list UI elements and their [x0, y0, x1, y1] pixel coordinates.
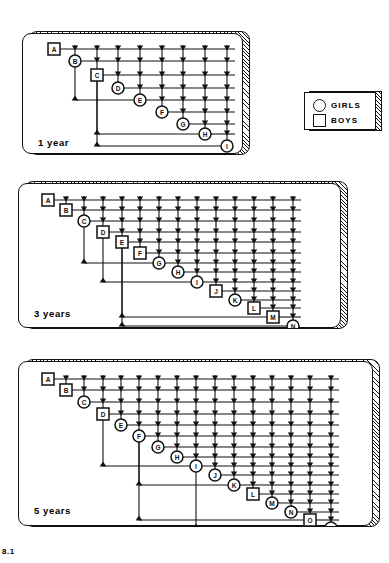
svg-text:L: L [252, 305, 256, 312]
legend-entry-girls: GIRLS [313, 99, 361, 112]
svg-text:I: I [226, 143, 228, 150]
svg-text:G: G [156, 260, 161, 267]
node-k: K [228, 479, 240, 491]
svg-text:B: B [64, 207, 69, 214]
node-d: D [97, 226, 109, 238]
node-c: C [91, 69, 103, 81]
node-c: C [78, 396, 90, 408]
node-i: I [191, 276, 203, 288]
node-b: B [60, 204, 72, 216]
node-a: A [48, 43, 60, 55]
node-n: N [285, 506, 297, 518]
node-d: D [112, 82, 124, 94]
node-f: F [134, 247, 146, 259]
panel-1-year-caption: 1 year [38, 137, 69, 148]
node-k: K [229, 294, 241, 306]
svg-text:C: C [82, 218, 87, 225]
svg-text:B: B [73, 58, 78, 65]
legend-box: GIRLS BOYS [304, 88, 382, 131]
svg-text:K: K [233, 297, 238, 304]
node-h: H [171, 451, 183, 463]
svg-text:E: E [138, 97, 143, 104]
svg-text:I: I [195, 463, 197, 470]
node-b: B [69, 55, 81, 67]
node-f: F [156, 106, 168, 118]
figure-number: 8.1 [2, 547, 15, 556]
svg-text:P: P [329, 525, 334, 526]
node-h: H [199, 128, 211, 140]
svg-text:D: D [101, 411, 106, 418]
svg-text:J: J [213, 472, 217, 479]
node-l: L [248, 302, 260, 314]
svg-text:J: J [214, 288, 218, 295]
legend-label-boys: BOYS [331, 116, 358, 125]
node-g: G [153, 257, 165, 269]
panel-1-year: ABCDEFGHI 1 year [22, 27, 250, 155]
node-g: G [177, 118, 189, 130]
svg-text:D: D [116, 85, 121, 92]
panel-3-years-caption: 3 years [34, 308, 71, 319]
node-o: O [304, 514, 316, 526]
svg-text:A: A [52, 46, 57, 53]
sociogram-figure: ABCDEFGHI 1 year ABCDEFGHIJKLMN 3 years … [0, 0, 389, 563]
node-e: E [115, 419, 127, 431]
node-m: M [267, 311, 279, 323]
node-i: I [190, 460, 202, 472]
svg-text:E: E [120, 239, 125, 246]
panel-3-years: ABCDEFGHIJKLMN 3 years [18, 177, 348, 329]
svg-text:L: L [251, 491, 255, 498]
svg-text:H: H [176, 269, 181, 276]
node-l: L [247, 488, 259, 500]
svg-text:A: A [46, 376, 51, 383]
svg-text:C: C [82, 399, 87, 406]
panel-5-years-diagram: ABCDEFGHIJKLMNOP [18, 361, 373, 526]
node-j: J [209, 469, 221, 481]
svg-text:N: N [289, 509, 294, 516]
panel-1-year-diagram: ABCDEFGHI [22, 33, 243, 154]
svg-text:B: B [64, 387, 69, 394]
svg-text:H: H [175, 454, 180, 461]
svg-text:K: K [232, 482, 237, 489]
svg-text:N: N [291, 323, 296, 328]
node-a: A [42, 194, 54, 206]
svg-text:F: F [160, 109, 164, 116]
node-h: H [172, 266, 184, 278]
node-f: F [133, 430, 145, 442]
node-i: I [221, 140, 233, 152]
svg-text:F: F [138, 250, 142, 257]
svg-text:G: G [180, 121, 185, 128]
node-a: A [42, 373, 54, 385]
panel-5-years-caption: 5 years [34, 505, 71, 516]
svg-text:D: D [101, 229, 106, 236]
svg-text:I: I [196, 279, 198, 286]
svg-text:F: F [137, 433, 141, 440]
svg-text:O: O [307, 517, 312, 524]
panel-5-years: ABCDEFGHIJKLMNOP 5 years [18, 355, 380, 527]
square-icon [313, 114, 326, 127]
node-c: C [78, 215, 90, 227]
circle-icon [313, 99, 326, 112]
panel-3-years-diagram: ABCDEFGHIJKLMN [18, 183, 341, 328]
legend-entry-boys: BOYS [313, 114, 358, 127]
svg-text:A: A [46, 197, 51, 204]
node-j: J [210, 285, 222, 297]
node-e: E [134, 94, 146, 106]
legend-label-girls: GIRLS [331, 101, 361, 110]
node-p: P [325, 522, 337, 526]
node-n: N [287, 320, 299, 328]
svg-text:E: E [119, 422, 124, 429]
svg-text:G: G [155, 444, 160, 451]
node-e: E [116, 236, 128, 248]
svg-text:M: M [270, 314, 275, 321]
node-m: M [266, 497, 278, 509]
node-b: B [60, 384, 72, 396]
svg-text:H: H [203, 131, 208, 138]
svg-text:C: C [95, 72, 100, 79]
svg-text:M: M [269, 500, 274, 507]
node-g: G [152, 441, 164, 453]
node-d: D [97, 408, 109, 420]
